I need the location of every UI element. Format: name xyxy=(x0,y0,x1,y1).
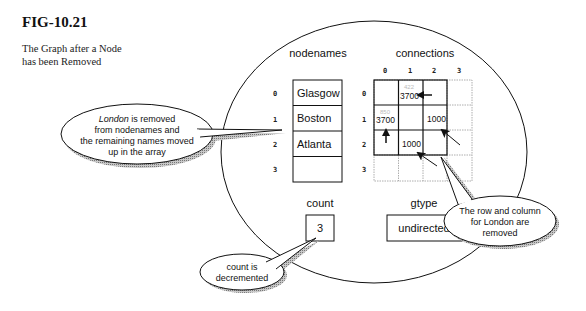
connections-col-index-2: 2 xyxy=(432,67,436,75)
connections-row-index-3: 3 xyxy=(362,166,366,174)
callout-connections-line3: removed xyxy=(482,228,517,238)
callout-connections-line1: The row and column xyxy=(459,206,541,216)
connections-cell-r0c1: 3700 xyxy=(400,91,419,101)
svg-text:London is removed: London is removed xyxy=(99,114,176,124)
connections-matrix: connections 0 1 2 3 0 1 2 3 422 850 3700… xyxy=(362,47,472,181)
nodenames-index-1: 1 xyxy=(273,116,277,124)
callout-connections: The row and column for London are remove… xyxy=(441,157,559,249)
nodenames-index-2: 2 xyxy=(273,141,277,149)
count-label: count xyxy=(307,197,334,209)
connections-cell-r1c2: 1000 xyxy=(427,114,446,124)
callout-count-line1: count is xyxy=(226,262,258,272)
callout-connections-line2: for London are xyxy=(471,217,530,227)
callout-nodenames-italic: London xyxy=(99,114,129,124)
connections-row-index-1: 1 xyxy=(362,116,366,124)
connections-col-index-3: 3 xyxy=(457,67,461,75)
callout-count: count is decremented xyxy=(200,238,320,293)
nodenames-cell-1: Boston xyxy=(297,112,331,124)
nodenames-label: nodenames xyxy=(289,47,347,59)
connections-cell-r1c0: 3700 xyxy=(376,115,395,125)
connections-label: connections xyxy=(396,47,455,59)
callout-nodenames-line3: the remaining names moved xyxy=(80,136,194,146)
connections-col-index-0: 0 xyxy=(383,67,387,75)
callout-nodenames-line2: from nodenames and xyxy=(94,125,179,135)
nodenames-array: nodenames 0 1 2 3 Glasgow Boston Atlanta xyxy=(273,47,347,182)
connections-row-index-0: 0 xyxy=(362,90,366,98)
connections-row-index-2: 2 xyxy=(362,141,366,149)
nodenames-index-0: 0 xyxy=(273,90,277,98)
callout-nodenames-line4: up in the array xyxy=(108,147,166,157)
arrow-diagonal-icon xyxy=(442,130,460,145)
connections-cell-r2c1: 1000 xyxy=(402,139,421,149)
ghost-value-r0c1: 422 xyxy=(404,84,415,90)
gtype-value: undirected xyxy=(398,222,449,234)
gtype-label: gtype xyxy=(411,197,438,209)
callout-count-line2: decremented xyxy=(216,273,269,283)
nodenames-cell-2: Atlanta xyxy=(297,138,332,150)
count-field: count 3 xyxy=(306,197,334,241)
callout-nodenames: London is removed from nodenames and the… xyxy=(61,104,286,168)
callout-nodenames-line1: is removed xyxy=(129,114,176,124)
nodenames-index-3: 3 xyxy=(273,166,277,174)
graph-diagram: nodenames 0 1 2 3 Glasgow Boston Atlanta… xyxy=(0,0,586,311)
connections-col-index-1: 1 xyxy=(408,67,412,75)
count-value: 3 xyxy=(317,222,323,234)
nodenames-cell-0: Glasgow xyxy=(297,87,340,99)
